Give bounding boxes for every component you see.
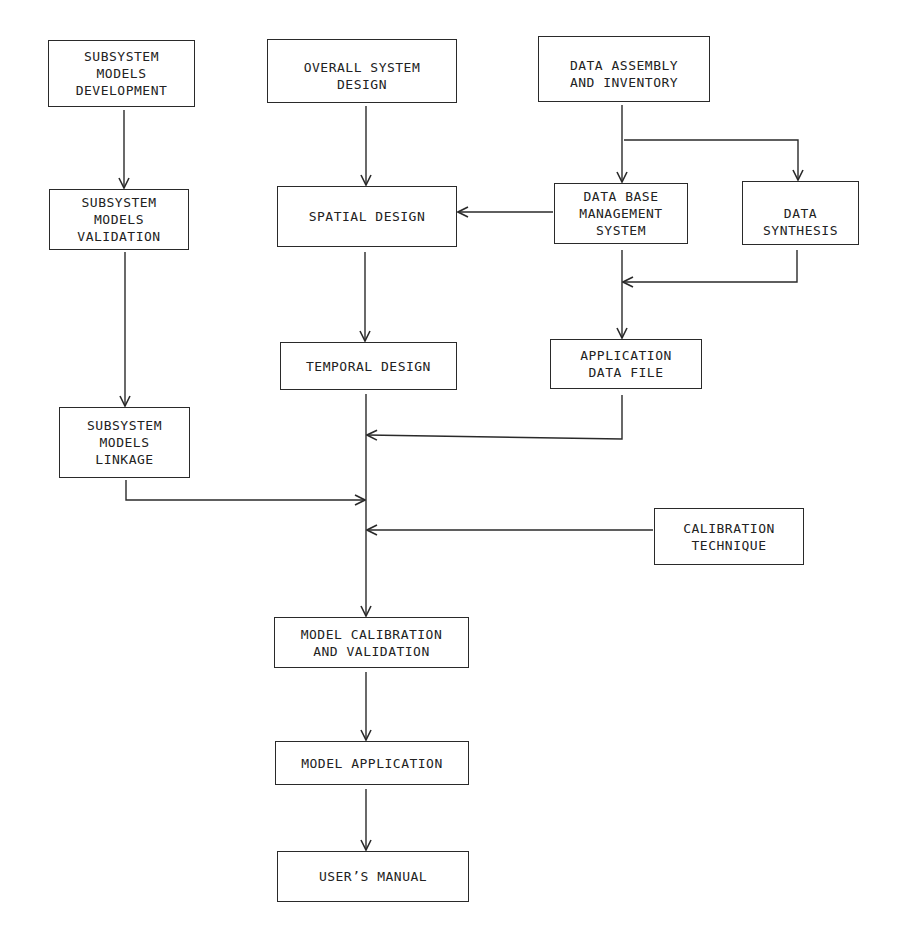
edge-linkage-to-trunk [126, 480, 365, 500]
box-data-synthesis: DATA SYNTHESIS [742, 181, 859, 245]
box-overall-system-design: OVERALL SYSTEM DESIGN [267, 39, 457, 103]
box-model-calibration-validation: MODEL CALIBRATION AND VALIDATION [274, 617, 469, 668]
edge-appdata-to-trunk [367, 395, 622, 439]
box-subsystem-models-linkage: SUBSYSTEM MODELS LINKAGE [59, 407, 190, 478]
edge-synthesis-to-appdata [623, 250, 797, 282]
box-spatial-design: SPATIAL DESIGN [277, 186, 457, 247]
box-temporal-design: TEMPORAL DESIGN [280, 342, 457, 390]
edge-assembly-to-synthesis [624, 140, 798, 180]
box-users-manual: USER’S MANUAL [277, 851, 469, 902]
box-subsystem-models-development: SUBSYSTEM MODELS DEVELOPMENT [48, 40, 195, 107]
box-model-application: MODEL APPLICATION [275, 741, 469, 785]
box-application-data-file: APPLICATION DATA FILE [550, 339, 702, 389]
box-data-base-management-system: DATA BASE MANAGEMENT SYSTEM [554, 183, 688, 244]
box-subsystem-models-validation: SUBSYSTEM MODELS VALIDATION [49, 189, 189, 250]
box-data-assembly-inventory: DATA ASSEMBLY AND INVENTORY [538, 36, 710, 102]
box-calibration-technique: CALIBRATION TECHNIQUE [654, 508, 804, 565]
